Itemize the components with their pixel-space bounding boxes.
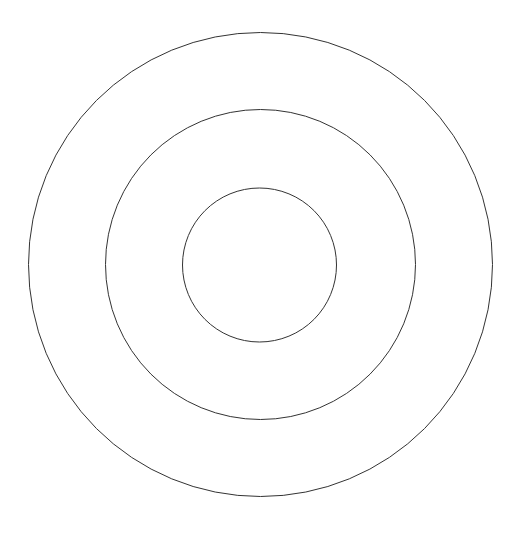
background [0, 0, 517, 535]
concentric-circles-diagram [0, 0, 517, 535]
